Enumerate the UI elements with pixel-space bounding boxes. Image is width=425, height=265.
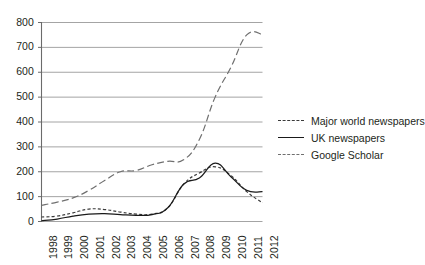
x-axis-tick-label: 2011 [252, 236, 264, 259]
legend-item[interactable]: Google Scholar [278, 146, 425, 163]
gridlines [42, 23, 263, 222]
x-axis-tick-label: 2003 [125, 235, 137, 259]
x-axis-tick-label: 2006 [173, 235, 185, 259]
x-axis-tick-label: 2002 [110, 235, 122, 259]
x-axis-tick-label: 2007 [189, 235, 201, 259]
series-lines [42, 32, 263, 221]
x-axis-tick-label: 2010 [236, 235, 248, 259]
legend-swatch-dashed [278, 154, 304, 155]
x-axis-tick-label: 1998 [47, 235, 59, 259]
series-line [42, 32, 263, 206]
x-axis-tick-label: 2009 [220, 235, 232, 259]
legend-swatch-solid [278, 137, 304, 138]
x-axis-tick-label: 2000 [78, 235, 90, 259]
x-axis-tick-label: 2012 [268, 235, 280, 259]
x-axis-tick-label: 2005 [157, 235, 169, 259]
legend-label: Google Scholar [311, 149, 383, 161]
x-axis-tick-label: 2004 [141, 235, 153, 259]
x-axis-tick-label: 2008 [204, 235, 216, 259]
legend-item[interactable]: UK newspapers [278, 129, 425, 146]
axis-lines [38, 22, 42, 222]
legend-swatch-dotted [278, 120, 304, 121]
x-axis-tick-label: 1999 [62, 235, 74, 259]
series-line [42, 167, 263, 217]
legend-item[interactable]: Major world newspapers [278, 112, 425, 129]
legend-label: UK newspapers [311, 132, 385, 144]
legend-label: Major world newspapers [311, 115, 425, 127]
x-axis-tick-label: 2001 [94, 235, 106, 259]
chart-legend: Major world newspapersUK newspapersGoogl… [278, 112, 425, 163]
